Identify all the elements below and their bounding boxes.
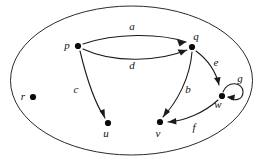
edge-label-a: a — [129, 20, 135, 32]
edge-c — [80, 51, 105, 118]
edge-label-c: c — [74, 83, 79, 95]
node-label-v: v — [156, 127, 161, 139]
edge-e-arrowhead — [214, 77, 221, 85]
node-v-dot[interactable] — [157, 119, 163, 125]
edge-label-e: e — [214, 56, 219, 68]
edge-label-d: d — [129, 59, 135, 71]
node-label-w: w — [214, 98, 222, 110]
edge-d-path — [83, 49, 187, 59]
edge-d — [83, 49, 187, 59]
edge-label-f: f — [192, 121, 197, 133]
node-u-dot[interactable] — [105, 120, 111, 126]
edge-c-path — [80, 51, 105, 118]
edge-g-self-loop — [223, 84, 243, 101]
node-label-p: p — [63, 39, 70, 51]
node-q-dot[interactable] — [189, 44, 195, 50]
node-label-u: u — [103, 127, 109, 139]
edge-g-arrowhead — [227, 95, 235, 101]
edge-f-arrowhead — [168, 118, 177, 125]
edge-a — [83, 35, 186, 46]
edge-label-g: g — [237, 72, 243, 84]
edge-a-path — [83, 35, 186, 44]
node-label-r: r — [21, 90, 26, 102]
node-p-dot[interactable] — [75, 43, 81, 49]
edge-label-b: b — [185, 83, 191, 95]
graph-canvas: p q r u v w a d c b e f g — [0, 0, 263, 166]
node-label-q: q — [193, 30, 199, 42]
digraph-figure: p q r u v w a d c b e f g — [0, 0, 263, 166]
node-r-dot[interactable] — [30, 94, 36, 100]
